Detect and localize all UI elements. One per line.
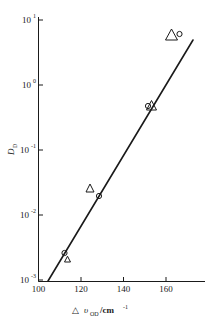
x-axis-title-unit: /cm (99, 305, 114, 315)
x-axis-title-delta: △ (72, 305, 79, 315)
y-tick-label-2: 10 (20, 145, 30, 155)
y-tick-exp-2: -1 (31, 143, 36, 149)
x-tick-label-2: 140 (117, 284, 131, 294)
x-tick-label-1: 120 (74, 284, 88, 294)
x-tick-label-3: 160 (159, 284, 173, 294)
y-tick-exp-0: 1 (33, 13, 36, 19)
y-tick-labels: 10 1 10 0 10 -1 10 -2 10 -3 (20, 13, 36, 285)
circle-data-points (62, 31, 182, 255)
y-tick-label-4: 10 (20, 275, 30, 285)
x-axis-title-unit-exp: -1 (123, 304, 128, 310)
x-tick-marks (39, 277, 167, 282)
y-tick-exp-1: 0 (33, 78, 36, 84)
x-axis-title: △ υ OD /cm -1 (72, 304, 128, 317)
y-axis-title: D D (6, 143, 18, 156)
chart-canvas: 10 1 10 0 10 -1 10 -2 10 -3 100 120 140 … (0, 0, 211, 328)
x-tick-labels: 100 120 140 160 (32, 284, 174, 294)
y-tick-exp-4: -3 (31, 273, 36, 279)
axes-group (39, 17, 206, 282)
y-axis-title-sub: D (12, 143, 18, 148)
linear-fit-line (48, 40, 193, 281)
x-axis-title-nu-sub: OD (90, 311, 99, 317)
data-point-triangle-1 (65, 256, 71, 262)
y-tick-label-3: 10 (20, 210, 30, 220)
triangle-data-points (65, 29, 178, 262)
y-axis-title-main: D (6, 148, 16, 156)
chart-figure: 10 1 10 0 10 -1 10 -2 10 -3 100 120 140 … (0, 0, 211, 328)
data-point-triangle-2 (86, 184, 94, 192)
data-point-circle-4 (177, 31, 182, 36)
y-tick-exp-3: -2 (31, 208, 36, 214)
y-tick-marks (39, 20, 44, 280)
data-point-triangle-4 (166, 29, 178, 40)
y-tick-label-1: 10 (22, 80, 32, 90)
x-tick-label-0: 100 (32, 284, 46, 294)
x-axis-title-nu: υ (84, 305, 88, 315)
y-tick-label-0: 10 (22, 15, 32, 25)
